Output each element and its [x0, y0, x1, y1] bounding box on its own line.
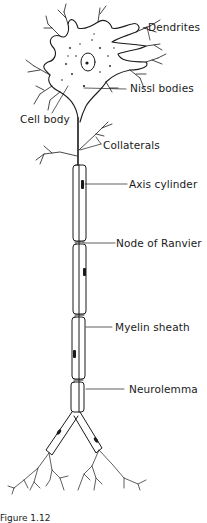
label-nissl-bodies: Nissl bodies: [130, 83, 194, 94]
label-node-of-ranvier: Node of Ranvier: [116, 238, 202, 249]
figure-caption: Figure 1.12: [0, 513, 50, 523]
terminal-segments: [46, 412, 102, 455]
label-dendrites: Dendrites: [148, 22, 200, 33]
label-myelin-sheath: Myelin sheath: [115, 322, 190, 333]
nissl-bodies: [61, 33, 115, 87]
label-collaterals: Collaterals: [103, 140, 160, 151]
label-cell-body: Cell body: [20, 114, 70, 125]
label-neurolemma: Neurolemma: [129, 384, 198, 395]
terminal-nuclei: [56, 429, 99, 444]
label-axis-cylinder: Axis cylinder: [129, 179, 197, 190]
axon-terminals: [8, 450, 146, 494]
nucleolus: [85, 61, 88, 64]
